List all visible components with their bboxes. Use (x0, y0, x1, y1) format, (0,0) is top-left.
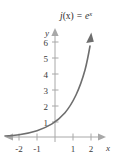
y-tick-label-4: 4 (44, 70, 49, 80)
x-axis-left-arrow-icon (5, 133, 13, 140)
x-tick-label-2: 2 (89, 144, 94, 154)
curve-arrow-icon (86, 33, 94, 44)
y-tick-label-3: 3 (44, 86, 49, 96)
function-exponent: x (88, 10, 92, 17)
x-tick-label-neg2: -2 (15, 144, 23, 154)
plot-canvas: -2 -1 1 2 1 2 3 4 5 6 y x j(x)=ex (0, 0, 116, 162)
y-tick-label-2: 2 (44, 102, 49, 112)
x-axis-label: x (105, 143, 110, 153)
y-tick-label-6: 6 (44, 38, 49, 48)
x-tick-label-1: 1 (71, 144, 76, 154)
function-equals: = (77, 11, 82, 21)
y-tick-label-5: 5 (44, 54, 49, 64)
x-tick-label-neg1: -1 (33, 144, 41, 154)
exponential-function-figure: -2 -1 1 2 1 2 3 4 5 6 y x j(x)=ex (0, 0, 116, 162)
function-label: j(x)=ex (58, 10, 92, 23)
x-axis-right-arrow-icon (98, 133, 106, 140)
y-axis-label: y (44, 28, 49, 38)
function-argument: (x) (63, 11, 74, 22)
y-axis-top-arrow-icon (51, 28, 58, 36)
